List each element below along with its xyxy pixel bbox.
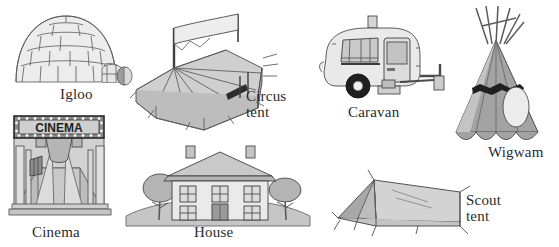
figure-house: House: [126, 144, 310, 226]
circus-banner: [174, 14, 238, 44]
chimney-left: [186, 146, 195, 158]
cinema-sign-text: CINEMA: [35, 121, 83, 135]
figure-wigwam: Wigwam: [446, 4, 556, 154]
label-cinema: Cinema: [32, 224, 80, 240]
tent-roof: [374, 180, 460, 222]
figure-circus-tent: Circus tent: [130, 6, 285, 118]
figure-igloo: Igloo: [8, 6, 138, 90]
caravan-tow-hitch: [420, 64, 440, 76]
chimney-right: [246, 146, 255, 158]
label-circus-tent: Circus tent: [246, 88, 286, 120]
igloo-drawing: [8, 6, 138, 90]
label-house: House: [194, 224, 233, 240]
label-wigwam: Wigwam: [488, 144, 544, 160]
wigwam-poles: [476, 6, 524, 44]
house-roof: [168, 152, 272, 176]
cinema-drawing: CINEMA: [8, 116, 112, 224]
figure-scout-tent: Scout tent: [332, 168, 472, 240]
cinema-poster: [30, 156, 42, 176]
label-caravan: Caravan: [348, 104, 399, 120]
label-igloo: Igloo: [60, 86, 93, 102]
caravan-vent: [368, 16, 377, 28]
wigwam-entrance: [503, 87, 529, 127]
label-scout-tent: Scout tent: [466, 192, 501, 224]
wigwam-drawing: [446, 4, 556, 154]
illustration-sheet: Igloo: [0, 0, 559, 247]
figure-caravan: Caravan: [316, 14, 448, 106]
house-drawing: [126, 144, 310, 226]
scout-tent-drawing: [332, 168, 472, 240]
figure-cinema: CINEMA Cinema: [8, 116, 112, 224]
caravan-drawing: [316, 14, 448, 106]
